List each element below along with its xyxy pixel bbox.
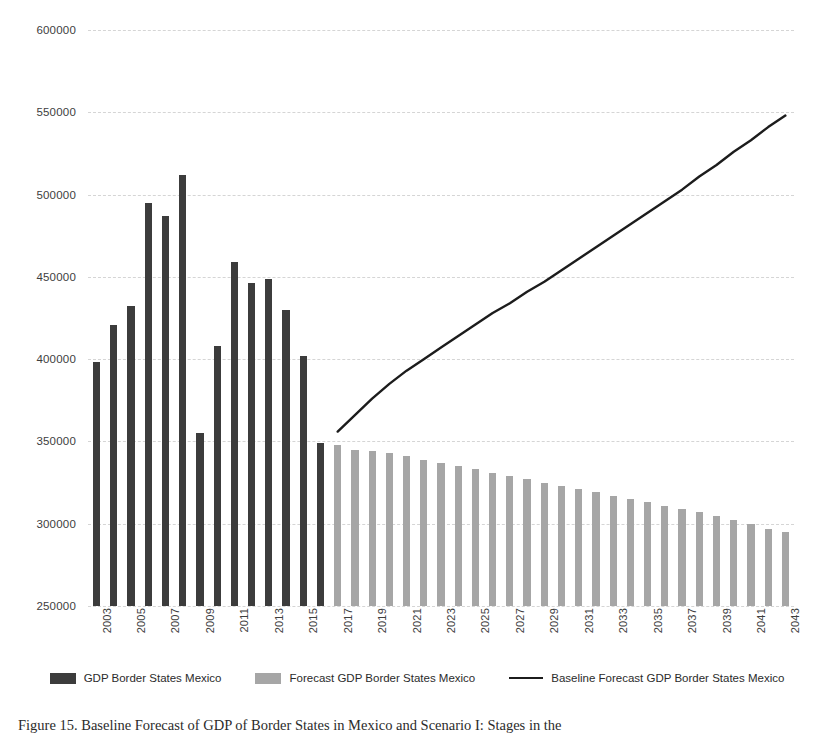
y-axis-tick-label: 450000 [36,271,76,283]
x-axis-tick-label: 2037 [686,608,698,633]
legend-swatch-dark-icon [50,673,76,684]
y-axis-tick-label: 400000 [36,353,76,365]
legend-label-baseline-forecast-gdp-border-states: Baseline Forecast GDP Border States Mexi… [551,672,784,684]
legend-item-gdp-border-states: GDP Border States Mexico [50,672,222,684]
baseline-forecast-line-layer [88,30,794,606]
x-axis-tick-label: 2027 [514,608,526,633]
x-axis-tick-label: 2033 [617,608,629,633]
x-axis-tick-label: 2017 [342,608,354,633]
legend-swatch-line-icon [509,677,543,679]
chart-legend: GDP Border States Mexico Forecast GDP Bo… [0,672,834,684]
x-axis-tick-label: 2031 [583,608,595,633]
chart-plot-area: 2500003000003500004000004500005000005500… [88,30,794,606]
x-axis-tick-labels: 2003200520072009201120132015201720192021… [88,606,794,662]
line-svg [88,30,794,606]
x-axis-tick-label: 2035 [652,608,664,633]
x-axis-tick-label: 2015 [307,608,319,633]
x-axis-tick-label: 2005 [135,608,147,633]
legend-label-gdp-border-states: GDP Border States Mexico [84,672,222,684]
x-axis-tick-label: 2013 [273,608,285,633]
legend-swatch-gray-icon [255,673,281,684]
x-axis-tick-label: 2043 [789,608,801,633]
x-axis-tick-label: 2007 [169,608,181,633]
legend-item-baseline-forecast-gdp-border-states: Baseline Forecast GDP Border States Mexi… [509,672,784,684]
x-axis-tick-label: 2009 [204,608,216,633]
legend-label-forecast-gdp-border-states: Forecast GDP Border States Mexico [289,672,475,684]
x-axis-tick-label: 2021 [411,608,423,633]
x-axis-tick-label: 2019 [376,608,388,633]
y-axis-tick-label: 500000 [36,189,76,201]
y-axis-tick-label: 300000 [36,518,76,530]
x-axis-tick-label: 2011 [238,608,250,632]
x-axis-tick-label: 2003 [101,608,113,633]
y-axis-tick-label: 250000 [36,600,76,612]
y-axis-tick-label: 600000 [36,24,76,36]
figure-container: 2500003000003500004000004500005000005500… [0,0,834,736]
y-axis-tick-label: 350000 [36,435,76,447]
baseline-forecast-polyline [338,116,786,432]
x-axis-tick-label: 2041 [755,608,767,633]
x-axis-tick-label: 2025 [479,608,491,633]
legend-item-forecast-gdp-border-states: Forecast GDP Border States Mexico [255,672,475,684]
y-axis-tick-label: 550000 [36,106,76,118]
x-axis-tick-label: 2029 [548,608,560,633]
x-axis-tick-label: 2023 [445,608,457,633]
figure-caption: Figure 15. Baseline Forecast of GDP of B… [18,716,818,736]
x-axis-tick-label: 2039 [721,608,733,633]
